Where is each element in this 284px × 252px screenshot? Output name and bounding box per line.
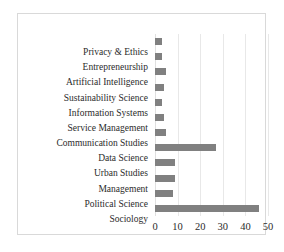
chart-frame: Privacy & EthicsEntrepreneurshipArtifici… bbox=[17, 13, 266, 235]
x-tick-label: 0 bbox=[152, 220, 157, 234]
bar[interactable] bbox=[155, 38, 162, 45]
category-label: Urban Studies bbox=[35, 168, 152, 179]
bar[interactable] bbox=[155, 144, 216, 151]
bar[interactable] bbox=[155, 129, 166, 136]
bar-row bbox=[155, 125, 268, 140]
bar-row bbox=[155, 201, 268, 216]
category-label: Artificial Intelligence bbox=[35, 77, 152, 88]
x-axis-tick-labels: 01020304050 bbox=[155, 220, 268, 238]
category-label: Management bbox=[35, 184, 152, 195]
bar-row bbox=[155, 49, 268, 64]
bar-row bbox=[155, 110, 268, 125]
bar[interactable] bbox=[155, 175, 175, 182]
bar[interactable] bbox=[155, 114, 164, 121]
category-label: Data Science bbox=[35, 153, 152, 164]
category-label: Sustainability Science bbox=[35, 93, 152, 104]
x-tick-label: 40 bbox=[240, 220, 251, 234]
x-tick-label: 30 bbox=[218, 220, 229, 234]
bar[interactable] bbox=[155, 159, 175, 166]
category-label: Communication Studies bbox=[35, 138, 152, 149]
bar-row bbox=[155, 64, 268, 79]
x-tick-label: 20 bbox=[195, 220, 206, 234]
bar[interactable] bbox=[155, 190, 173, 197]
bar-row bbox=[155, 34, 268, 49]
category-label: Sociology bbox=[35, 214, 152, 225]
x-tick-label: 10 bbox=[172, 220, 183, 234]
bar[interactable] bbox=[155, 84, 164, 91]
category-label: Political Science bbox=[35, 199, 152, 210]
category-label: Service Management bbox=[35, 123, 152, 134]
category-label: Privacy & Ethics bbox=[35, 47, 152, 58]
bar-chart-figure: Privacy & EthicsEntrepreneurshipArtifici… bbox=[0, 0, 284, 252]
gridline-50 bbox=[268, 34, 269, 216]
bar-row bbox=[155, 155, 268, 170]
bar-row bbox=[155, 140, 268, 155]
category-axis-labels: Privacy & EthicsEntrepreneurshipArtifici… bbox=[35, 47, 152, 229]
bar[interactable] bbox=[155, 205, 259, 212]
bar-row bbox=[155, 171, 268, 186]
bar-row bbox=[155, 80, 268, 95]
category-label: Entrepreneurship bbox=[35, 62, 152, 73]
bar[interactable] bbox=[155, 99, 162, 106]
bar[interactable] bbox=[155, 53, 162, 60]
plot-area bbox=[155, 34, 268, 216]
bars-layer bbox=[155, 34, 268, 216]
category-label: Information Systems bbox=[35, 108, 152, 119]
bar-row bbox=[155, 186, 268, 201]
bar-row bbox=[155, 95, 268, 110]
x-tick-label: 50 bbox=[263, 220, 274, 234]
bar[interactable] bbox=[155, 68, 166, 75]
